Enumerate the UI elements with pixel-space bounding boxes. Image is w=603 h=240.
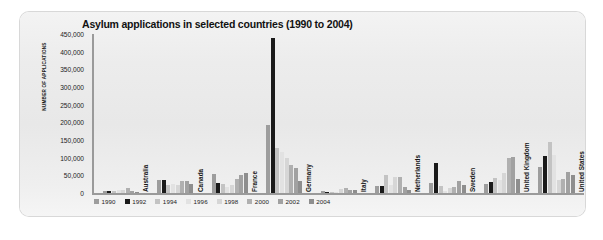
bar[interactable] — [561, 179, 565, 193]
bar-group — [157, 34, 194, 193]
chart-legend: 19901992199419961998200020022004 — [94, 198, 339, 205]
bar[interactable] — [321, 191, 325, 193]
bar[interactable] — [434, 163, 438, 193]
legend-item[interactable]: 1996 — [186, 198, 208, 205]
bar[interactable] — [157, 180, 161, 193]
bar[interactable] — [571, 175, 575, 193]
bar[interactable] — [452, 187, 456, 193]
bar[interactable] — [407, 190, 411, 193]
bar[interactable] — [239, 175, 243, 193]
bar[interactable] — [548, 142, 552, 193]
bar[interactable] — [266, 125, 270, 193]
bar[interactable] — [112, 191, 116, 193]
bar[interactable] — [507, 158, 511, 193]
bar[interactable] — [353, 190, 357, 193]
bar[interactable] — [489, 182, 493, 193]
bar[interactable] — [339, 189, 343, 193]
bar[interactable] — [225, 187, 229, 193]
bar[interactable] — [107, 191, 111, 193]
bar[interactable] — [484, 184, 488, 193]
bar[interactable] — [543, 156, 547, 193]
legend-item[interactable]: 1990 — [94, 198, 116, 205]
legend-label: 1996 — [194, 198, 208, 205]
category-label: United Kingdom — [523, 143, 530, 192]
bar[interactable] — [294, 168, 298, 193]
bar[interactable] — [552, 155, 556, 193]
bar[interactable] — [334, 192, 338, 193]
bar[interactable] — [511, 157, 515, 193]
bar[interactable] — [103, 191, 107, 193]
legend-swatch-icon — [186, 199, 191, 204]
bar[interactable] — [135, 192, 139, 193]
bar[interactable] — [162, 180, 166, 193]
bar[interactable] — [117, 190, 121, 193]
bar[interactable] — [384, 175, 388, 193]
bar[interactable] — [375, 186, 379, 193]
bar[interactable] — [244, 173, 248, 193]
bar[interactable] — [502, 173, 506, 193]
legend-swatch-icon — [309, 199, 314, 204]
y-tick-label: 0 — [20, 190, 84, 197]
bar[interactable] — [429, 183, 433, 193]
bar[interactable] — [493, 178, 497, 193]
bar[interactable] — [348, 190, 352, 193]
bar[interactable] — [285, 158, 289, 193]
bar[interactable] — [344, 188, 348, 193]
bar[interactable] — [498, 180, 502, 193]
legend-item[interactable]: 1994 — [155, 198, 177, 205]
legend-swatch-icon — [278, 199, 283, 204]
bar[interactable] — [398, 177, 402, 193]
bar[interactable] — [298, 181, 302, 193]
legend-swatch-icon — [155, 199, 160, 204]
bar[interactable] — [130, 191, 134, 193]
bar[interactable] — [212, 174, 216, 193]
bar[interactable] — [176, 185, 180, 193]
y-tick-label: 400,000 — [20, 48, 84, 55]
legend-item[interactable]: 2002 — [278, 198, 300, 205]
bar[interactable] — [180, 181, 184, 193]
bar[interactable] — [185, 181, 189, 193]
bar[interactable] — [389, 185, 393, 193]
bar[interactable] — [166, 185, 170, 193]
bar[interactable] — [275, 148, 279, 193]
bar[interactable] — [380, 186, 384, 193]
bar[interactable] — [171, 184, 175, 193]
bar[interactable] — [443, 191, 447, 193]
y-tick-label: 150,000 — [20, 137, 84, 144]
bar[interactable] — [189, 184, 193, 193]
bar[interactable] — [462, 185, 466, 193]
bar[interactable] — [271, 38, 275, 193]
bar[interactable] — [457, 181, 461, 193]
bar[interactable] — [516, 179, 520, 193]
plot-area: AustraliaCanadaFranceGermanyItalyNetherl… — [94, 34, 584, 193]
bar[interactable] — [221, 184, 225, 193]
legend-item[interactable]: 1992 — [125, 198, 147, 205]
legend-item[interactable]: 2000 — [247, 198, 269, 205]
bar[interactable] — [330, 192, 334, 193]
category-label: Netherlands — [414, 155, 421, 192]
bar[interactable] — [403, 187, 407, 193]
bar[interactable] — [230, 185, 234, 193]
bar[interactable] — [439, 186, 443, 193]
bar[interactable] — [280, 152, 284, 193]
bar[interactable] — [325, 192, 329, 193]
y-tick-label: 450,000 — [20, 31, 84, 38]
legend-label: 1990 — [102, 198, 116, 205]
bar[interactable] — [289, 165, 293, 193]
y-tick-label: 350,000 — [20, 66, 84, 73]
bar[interactable] — [126, 188, 130, 193]
bar[interactable] — [557, 180, 561, 193]
bar[interactable] — [566, 172, 570, 193]
bar[interactable] — [235, 179, 239, 193]
bar[interactable] — [121, 190, 125, 193]
bar[interactable] — [393, 177, 397, 193]
legend-item[interactable]: 1998 — [217, 198, 239, 205]
bar[interactable] — [216, 183, 220, 193]
bar[interactable] — [448, 188, 452, 193]
category-label: Canada — [197, 169, 204, 192]
bar-group — [484, 34, 521, 193]
category-label: Australia — [142, 165, 149, 192]
legend-swatch-icon — [247, 199, 252, 204]
legend-item[interactable]: 2004 — [309, 198, 331, 205]
bar[interactable] — [538, 167, 542, 193]
